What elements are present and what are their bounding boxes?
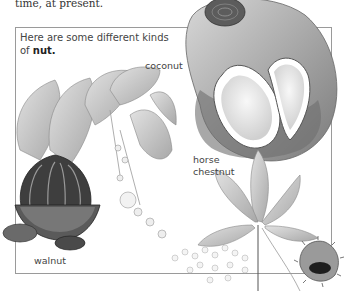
walnut-illustration: [3, 67, 176, 250]
coconut-illustration: [186, 0, 337, 161]
label-horse-chestnut: horse chestnut: [193, 154, 235, 178]
box-caption: Here are some different kinds of nut.: [20, 31, 180, 57]
label-horse-chestnut-line2: chestnut: [193, 166, 235, 178]
label-horse-chestnut-line1: horse: [193, 154, 235, 166]
label-walnut: walnut: [34, 255, 66, 267]
label-coconut: coconut: [145, 60, 183, 72]
caption-keyword-nut: nut.: [33, 45, 56, 56]
